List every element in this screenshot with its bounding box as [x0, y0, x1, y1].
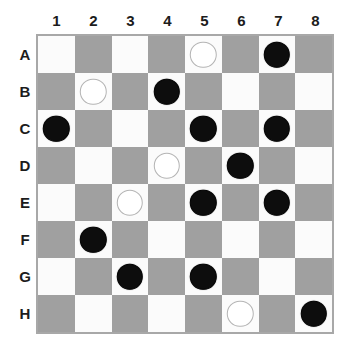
board-square-G7[interactable]: [259, 258, 296, 295]
board-square-H1[interactable]: [38, 295, 75, 332]
board-square-H8[interactable]: [295, 295, 332, 332]
board-square-C8[interactable]: [295, 110, 332, 147]
row-label-F: F: [14, 221, 36, 258]
board-square-E7[interactable]: [259, 184, 296, 221]
black-piece-D6[interactable]: [227, 152, 253, 179]
black-piece-C7[interactable]: [264, 115, 290, 142]
row-label-H: H: [14, 295, 36, 332]
black-piece-C5[interactable]: [190, 115, 216, 142]
board-square-A7[interactable]: [259, 36, 296, 73]
board-square-B5[interactable]: [185, 73, 222, 110]
board-square-D8[interactable]: [295, 147, 332, 184]
column-label-1: 1: [38, 9, 75, 33]
board-square-G4[interactable]: [148, 258, 185, 295]
column-label-6: 6: [223, 9, 260, 33]
board-square-A1[interactable]: [38, 36, 75, 73]
column-label-4: 4: [149, 9, 186, 33]
row-label-column: ABCDEFGH: [14, 36, 36, 332]
black-piece-G5[interactable]: [190, 263, 216, 290]
board-square-D5[interactable]: [185, 147, 222, 184]
board-square-D4[interactable]: [148, 147, 185, 184]
board-square-E2[interactable]: [75, 184, 112, 221]
board-square-D1[interactable]: [38, 147, 75, 184]
board-square-E1[interactable]: [38, 184, 75, 221]
board-square-G2[interactable]: [75, 258, 112, 295]
board-square-F1[interactable]: [38, 221, 75, 258]
board-grid[interactable]: [38, 36, 332, 332]
board-square-A2[interactable]: [75, 36, 112, 73]
checkers-board-widget: 12345678 ABCDEFGH: [0, 0, 345, 354]
black-piece-F2[interactable]: [80, 226, 106, 253]
row-label-C: C: [14, 110, 36, 147]
black-piece-E7[interactable]: [264, 189, 290, 216]
board-square-A4[interactable]: [148, 36, 185, 73]
board-square-C7[interactable]: [259, 110, 296, 147]
board-square-D3[interactable]: [112, 147, 149, 184]
black-piece-E5[interactable]: [190, 189, 216, 216]
board-square-E4[interactable]: [148, 184, 185, 221]
black-piece-A7[interactable]: [264, 41, 290, 68]
board-square-G1[interactable]: [38, 258, 75, 295]
row-label-A: A: [14, 36, 36, 73]
board-square-C1[interactable]: [38, 110, 75, 147]
board-square-A8[interactable]: [295, 36, 332, 73]
board-square-G5[interactable]: [185, 258, 222, 295]
board-square-E8[interactable]: [295, 184, 332, 221]
row-label-G: G: [14, 258, 36, 295]
board-square-D6[interactable]: [222, 147, 259, 184]
board-square-C6[interactable]: [222, 110, 259, 147]
board-square-E6[interactable]: [222, 184, 259, 221]
board-square-C5[interactable]: [185, 110, 222, 147]
board-square-H4[interactable]: [148, 295, 185, 332]
white-piece-H6[interactable]: [227, 300, 253, 327]
board-square-F5[interactable]: [185, 221, 222, 258]
white-piece-B2[interactable]: [80, 78, 106, 105]
row-label-B: B: [14, 73, 36, 110]
black-piece-C1[interactable]: [43, 115, 69, 142]
row-label-D: D: [14, 147, 36, 184]
board-square-H6[interactable]: [222, 295, 259, 332]
board-square-B6[interactable]: [222, 73, 259, 110]
board-square-H5[interactable]: [185, 295, 222, 332]
board-square-H3[interactable]: [112, 295, 149, 332]
board-square-A3[interactable]: [112, 36, 149, 73]
board-square-G3[interactable]: [112, 258, 149, 295]
column-label-row: 12345678: [38, 9, 334, 33]
board-square-A6[interactable]: [222, 36, 259, 73]
board-square-F4[interactable]: [148, 221, 185, 258]
board-square-B4[interactable]: [148, 73, 185, 110]
board-square-E5[interactable]: [185, 184, 222, 221]
board-square-F8[interactable]: [295, 221, 332, 258]
board-square-B1[interactable]: [38, 73, 75, 110]
board-square-H2[interactable]: [75, 295, 112, 332]
board-square-F7[interactable]: [259, 221, 296, 258]
board-square-D2[interactable]: [75, 147, 112, 184]
board-square-D7[interactable]: [259, 147, 296, 184]
board-frame: [36, 34, 334, 334]
board-square-B2[interactable]: [75, 73, 112, 110]
white-piece-D4[interactable]: [153, 152, 179, 179]
column-label-7: 7: [260, 9, 297, 33]
board-square-C3[interactable]: [112, 110, 149, 147]
white-piece-A5[interactable]: [190, 41, 216, 68]
board-square-G6[interactable]: [222, 258, 259, 295]
white-piece-E3[interactable]: [117, 189, 143, 216]
row-label-E: E: [14, 184, 36, 221]
black-piece-H8[interactable]: [300, 300, 326, 327]
board-square-B7[interactable]: [259, 73, 296, 110]
board-square-B3[interactable]: [112, 73, 149, 110]
board-square-C4[interactable]: [148, 110, 185, 147]
black-piece-G3[interactable]: [117, 263, 143, 290]
column-label-5: 5: [186, 9, 223, 33]
board-square-H7[interactable]: [259, 295, 296, 332]
board-square-F6[interactable]: [222, 221, 259, 258]
board-square-A5[interactable]: [185, 36, 222, 73]
board-square-G8[interactable]: [295, 258, 332, 295]
column-label-8: 8: [297, 9, 334, 33]
board-square-E3[interactable]: [112, 184, 149, 221]
board-square-F2[interactable]: [75, 221, 112, 258]
black-piece-B4[interactable]: [153, 78, 179, 105]
board-square-B8[interactable]: [295, 73, 332, 110]
board-square-F3[interactable]: [112, 221, 149, 258]
board-square-C2[interactable]: [75, 110, 112, 147]
